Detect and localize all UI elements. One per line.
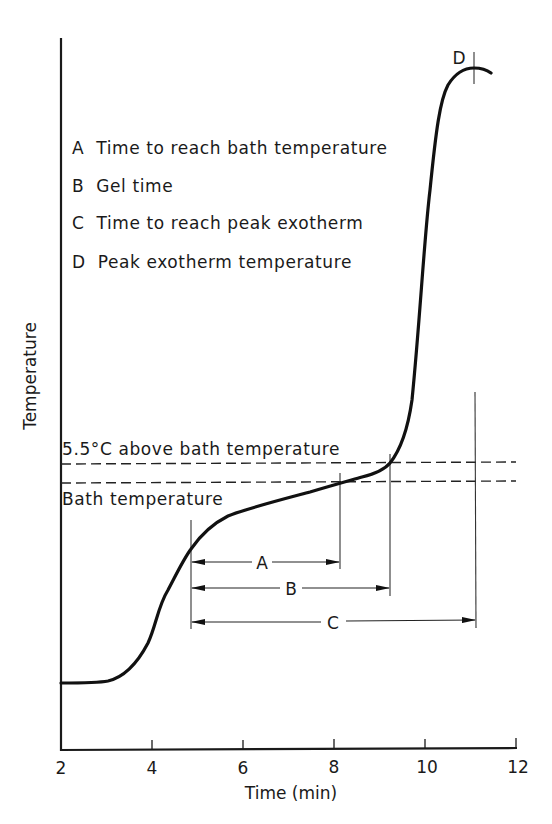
- x-tick-label: 8: [329, 757, 340, 777]
- bath-temperature-label: Bath temperature: [62, 489, 223, 509]
- x-tick-label: 12: [507, 757, 529, 777]
- dimension-c-label: C: [327, 613, 339, 633]
- dimension-a-label: A: [256, 553, 268, 573]
- bath-temperature-line: [61, 481, 516, 483]
- dimension-c: C: [192, 613, 475, 633]
- legend-item-a: A Time to reach bath temperature: [72, 138, 388, 158]
- above-bath-line: [61, 462, 516, 464]
- legend-item-d: D Peak exotherm temperature: [72, 252, 352, 272]
- x-axis: [60, 748, 517, 750]
- y-axis-title: Temperature: [20, 322, 40, 431]
- legend: A Time to reach bath temperature B Gel t…: [72, 138, 388, 272]
- temperature-curve: [61, 68, 491, 683]
- x-tick-label: 6: [238, 758, 249, 778]
- x-axis-title: Time (min): [244, 783, 337, 803]
- exotherm-chart: 2 4 6 8 10 12 Time (min) Temperature A T…: [0, 0, 552, 824]
- peak-label-d: D: [452, 48, 465, 68]
- x-tick-labels: 2 4 6 8 10 12: [56, 757, 529, 778]
- x-tick-label: 2: [56, 758, 67, 778]
- legend-item-b: B Gel time: [72, 176, 173, 196]
- dimension-b-label: B: [285, 579, 297, 599]
- dimension-a: A: [192, 553, 339, 573]
- above-bath-label: 5.5°C above bath temperature: [62, 439, 340, 459]
- x-tick-label: 10: [416, 757, 438, 777]
- c-end-line: [475, 392, 476, 628]
- x-tick-label: 4: [147, 758, 158, 778]
- dimension-b: B: [192, 579, 389, 599]
- legend-item-c: C Time to reach peak exotherm: [72, 213, 363, 233]
